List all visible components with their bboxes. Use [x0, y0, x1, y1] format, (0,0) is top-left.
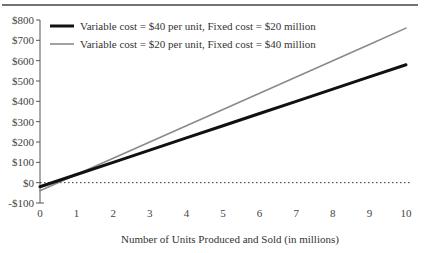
legend: Variable cost = $40 per unit, Fixed cost… — [50, 20, 316, 50]
series-line-2 — [40, 28, 406, 191]
x-tick-label: 2 — [110, 207, 116, 219]
y-tick-label: $0 — [23, 177, 35, 189]
data-lines — [40, 28, 406, 191]
legend-label-series-2: Variable cost = $20 per unit, Fixed cost… — [80, 38, 316, 50]
y-tick-label: $400 — [12, 95, 35, 107]
y-tick-label: $800 — [12, 14, 35, 26]
x-tick-label: 6 — [257, 207, 263, 219]
y-tick-label: $600 — [12, 55, 35, 67]
x-tick-label: 1 — [74, 207, 80, 219]
x-tick-label: 5 — [220, 207, 226, 219]
y-tick-label: $700 — [12, 34, 35, 46]
x-axis-title: Number of Units Produced and Sold (in mi… — [121, 233, 339, 246]
x-tick-label: 0 — [37, 207, 43, 219]
y-tick-label: $100 — [12, 156, 35, 168]
x-tick-label: 3 — [147, 207, 153, 219]
y-tick-label: $300 — [12, 116, 35, 128]
legend-label-series-1: Variable cost = $40 per unit, Fixed cost… — [80, 20, 316, 32]
y-tick-label: $200 — [12, 136, 35, 148]
x-tick-label: 4 — [184, 207, 190, 219]
line-chart: -$100$0$100$200$300$400$500$600$700$8000… — [0, 0, 426, 253]
x-tick-label: 9 — [367, 207, 373, 219]
x-tick-label: 8 — [330, 207, 336, 219]
x-tick-label: 10 — [401, 207, 413, 219]
y-tick-label: -$100 — [8, 197, 34, 209]
series-line-1 — [40, 65, 406, 187]
x-tick-label: 7 — [293, 207, 299, 219]
y-tick-label: $500 — [12, 75, 35, 87]
